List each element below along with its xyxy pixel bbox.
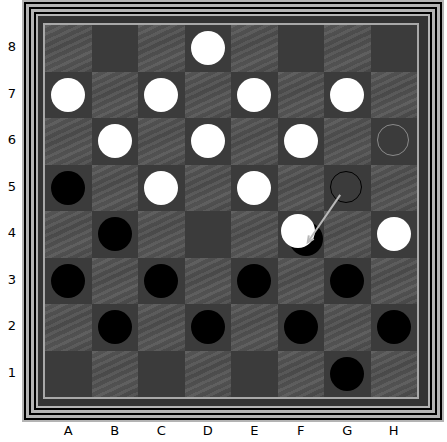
file-label: F	[291, 423, 311, 438]
square-h3[interactable]	[371, 258, 418, 305]
square-b2[interactable]	[92, 304, 139, 351]
square-c5[interactable]	[138, 165, 185, 212]
square-a4[interactable]	[45, 211, 92, 258]
white-piece[interactable]	[377, 217, 411, 251]
white-piece[interactable]	[98, 124, 132, 158]
square-f2[interactable]	[278, 304, 325, 351]
square-a3[interactable]	[45, 258, 92, 305]
square-d5[interactable]	[185, 165, 232, 212]
square-h4[interactable]	[371, 211, 418, 258]
square-f6[interactable]	[278, 118, 325, 165]
square-c8[interactable]	[138, 25, 185, 72]
square-a2[interactable]	[45, 304, 92, 351]
square-d2[interactable]	[185, 304, 232, 351]
black-piece[interactable]	[191, 310, 225, 344]
white-piece[interactable]	[284, 124, 318, 158]
square-c2[interactable]	[138, 304, 185, 351]
square-b6[interactable]	[92, 118, 139, 165]
black-piece[interactable]	[377, 310, 411, 344]
white-piece[interactable]	[144, 171, 178, 205]
square-b3[interactable]	[92, 258, 139, 305]
rank-label: 8	[0, 39, 16, 54]
square-b1[interactable]	[92, 351, 139, 398]
square-c1[interactable]	[138, 351, 185, 398]
square-e8[interactable]	[231, 25, 278, 72]
square-h1[interactable]	[371, 351, 418, 398]
square-g1[interactable]	[324, 351, 371, 398]
square-b7[interactable]	[92, 72, 139, 119]
white-piece[interactable]	[144, 78, 178, 112]
square-c4[interactable]	[138, 211, 185, 258]
square-a5[interactable]	[45, 165, 92, 212]
square-g7[interactable]	[324, 72, 371, 119]
square-f1[interactable]	[278, 351, 325, 398]
square-h2[interactable]	[371, 304, 418, 351]
square-a1[interactable]	[45, 351, 92, 398]
square-e6[interactable]	[231, 118, 278, 165]
square-b4[interactable]	[92, 211, 139, 258]
highlight-ring	[330, 171, 362, 203]
rank-label: 6	[0, 132, 16, 147]
black-piece[interactable]	[330, 357, 364, 391]
black-piece[interactable]	[51, 264, 85, 298]
black-piece[interactable]	[98, 310, 132, 344]
square-g2[interactable]	[324, 304, 371, 351]
square-d3[interactable]	[185, 258, 232, 305]
square-g8[interactable]	[324, 25, 371, 72]
square-e5[interactable]	[231, 165, 278, 212]
square-a6[interactable]	[45, 118, 92, 165]
white-piece[interactable]	[191, 124, 225, 158]
white-piece[interactable]	[330, 78, 364, 112]
square-d1[interactable]	[185, 351, 232, 398]
checkerboard	[45, 25, 417, 397]
square-h6[interactable]	[371, 118, 418, 165]
rank-label: 5	[0, 179, 16, 194]
square-f7[interactable]	[278, 72, 325, 119]
white-piece[interactable]	[237, 78, 271, 112]
black-piece[interactable]	[98, 217, 132, 251]
black-piece[interactable]	[237, 264, 271, 298]
square-c3[interactable]	[138, 258, 185, 305]
square-e2[interactable]	[231, 304, 278, 351]
square-f8[interactable]	[278, 25, 325, 72]
square-g5[interactable]	[324, 165, 371, 212]
square-g4[interactable]	[324, 211, 371, 258]
square-d7[interactable]	[185, 72, 232, 119]
black-piece[interactable]	[284, 310, 318, 344]
square-f5[interactable]	[278, 165, 325, 212]
square-b8[interactable]	[92, 25, 139, 72]
square-h8[interactable]	[371, 25, 418, 72]
square-b5[interactable]	[92, 165, 139, 212]
black-piece[interactable]	[51, 171, 85, 205]
square-e4[interactable]	[231, 211, 278, 258]
black-piece[interactable]	[144, 264, 178, 298]
white-piece[interactable]	[51, 78, 85, 112]
square-e1[interactable]	[231, 351, 278, 398]
square-g6[interactable]	[324, 118, 371, 165]
square-e3[interactable]	[231, 258, 278, 305]
square-c7[interactable]	[138, 72, 185, 119]
white-piece[interactable]	[237, 171, 271, 205]
black-piece[interactable]	[330, 264, 364, 298]
file-label: G	[337, 423, 357, 438]
file-label: H	[384, 423, 404, 438]
square-f4[interactable]	[278, 211, 325, 258]
square-a7[interactable]	[45, 72, 92, 119]
square-e7[interactable]	[231, 72, 278, 119]
rank-label: 2	[0, 318, 16, 333]
rank-label: 4	[0, 225, 16, 240]
rank-label: 1	[0, 365, 16, 380]
highlight-ring	[377, 124, 409, 156]
square-g3[interactable]	[324, 258, 371, 305]
square-f3[interactable]	[278, 258, 325, 305]
square-c6[interactable]	[138, 118, 185, 165]
square-h5[interactable]	[371, 165, 418, 212]
white-piece[interactable]	[191, 31, 225, 65]
square-a8[interactable]	[45, 25, 92, 72]
square-h7[interactable]	[371, 72, 418, 119]
white-piece[interactable]	[281, 214, 315, 248]
square-d8[interactable]	[185, 25, 232, 72]
file-label: E	[244, 423, 264, 438]
square-d6[interactable]	[185, 118, 232, 165]
square-d4[interactable]	[185, 211, 232, 258]
